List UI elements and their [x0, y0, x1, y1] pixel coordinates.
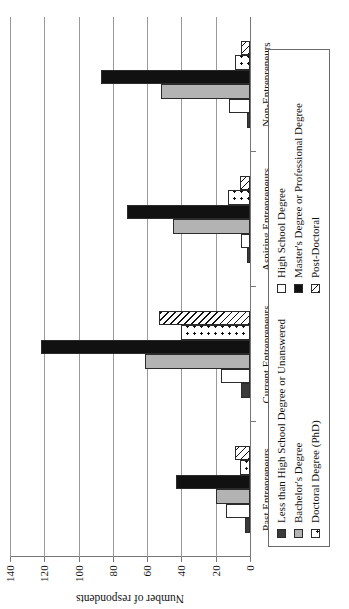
- bar: [247, 249, 250, 264]
- plot-area: 020406080100120140 Past EntrepreneursCur…: [10, 17, 250, 557]
- legend-label: High School Degree: [275, 188, 289, 278]
- legend-swatch-icon: [277, 529, 286, 538]
- gridline: [10, 17, 11, 557]
- bar: [159, 311, 250, 326]
- axis-tick-label: 100: [73, 565, 85, 582]
- bar: [127, 205, 250, 220]
- rotated-figure-wrapper: 020406080100120140 Past EntrepreneursCur…: [0, 0, 349, 609]
- axis-tick: [79, 557, 80, 562]
- axis-tick-label: 140: [4, 565, 16, 582]
- axis-tick: [216, 557, 217, 562]
- bar: [173, 220, 250, 235]
- bar: [229, 99, 250, 114]
- axis-tick-label: 120: [38, 565, 50, 582]
- legend-label: Doctoral Degree (PhD): [309, 420, 323, 523]
- axis-tick-label: 60: [141, 565, 153, 576]
- bar: [235, 56, 250, 71]
- y-axis-title: Number of respondents: [76, 593, 184, 605]
- legend-label: Bachelor's Degree: [292, 443, 306, 523]
- bar: [241, 234, 250, 249]
- category-axis-line: [250, 17, 251, 557]
- bar-chart-figure: 020406080100120140 Past EntrepreneursCur…: [0, 0, 349, 609]
- bar: [101, 70, 250, 85]
- axis-tick: [250, 557, 251, 562]
- gridline: [79, 17, 80, 557]
- axis-tick: [44, 557, 45, 562]
- bar: [226, 504, 250, 519]
- axis-tick-label: 0: [244, 565, 256, 571]
- bar: [221, 369, 250, 384]
- axis-tick: [147, 557, 148, 562]
- axis-tick-label: 40: [175, 565, 187, 576]
- gridline: [147, 17, 148, 557]
- legend-item[interactable]: Master's Degree or Professional Degree: [292, 58, 306, 293]
- value-axis-line: [10, 556, 250, 557]
- bar: [181, 326, 250, 341]
- bar: [228, 191, 250, 206]
- legend-item[interactable]: Doctoral Degree (PhD): [309, 303, 323, 538]
- legend-swatch-icon: [277, 284, 286, 293]
- chart-legend: Less than High School Degree or Unanswer…: [268, 49, 330, 547]
- bar: [235, 446, 250, 461]
- bar: [240, 461, 250, 476]
- axis-tick-label: 20: [210, 565, 222, 576]
- legend-swatch-icon: [294, 529, 303, 538]
- gridline: [44, 17, 45, 557]
- bar: [245, 519, 250, 534]
- category-separator-tick: [250, 151, 256, 152]
- legend-label: Master's Degree or Professional Degree: [292, 103, 306, 278]
- bar: [161, 85, 250, 100]
- bar: [176, 475, 250, 490]
- bar: [241, 41, 250, 56]
- category-separator-tick: [250, 286, 256, 287]
- legend-swatch-icon: [294, 284, 303, 293]
- bar: [240, 176, 250, 191]
- legend-item[interactable]: Less than High School Degree or Unanswer…: [275, 303, 289, 538]
- legend-item[interactable]: High School Degree: [275, 58, 289, 293]
- gridline: [113, 17, 114, 557]
- legend-swatch-icon: [311, 284, 320, 293]
- legend-item[interactable]: Bachelor's Degree: [292, 303, 306, 538]
- bar: [241, 384, 250, 399]
- bar: [247, 114, 250, 129]
- legend-label: Post-Doctoral: [309, 217, 323, 278]
- category-separator-tick: [250, 421, 256, 422]
- bar: [41, 340, 250, 355]
- axis-tick: [181, 557, 182, 562]
- legend-item[interactable]: Post-Doctoral: [309, 58, 323, 293]
- bar: [216, 490, 250, 505]
- axis-tick-label: 80: [107, 565, 119, 576]
- axis-tick: [10, 557, 11, 562]
- bar: [145, 355, 250, 370]
- legend-label: Less than High School Degree or Unanswer…: [275, 319, 289, 523]
- axis-tick: [113, 557, 114, 562]
- legend-swatch-icon: [311, 529, 320, 538]
